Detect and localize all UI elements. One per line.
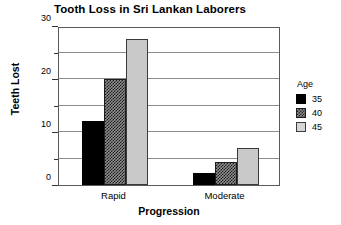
legend-entries: 354045 xyxy=(296,92,340,133)
x-axis-title: Progression xyxy=(58,205,280,217)
legend: Age 354045 xyxy=(296,79,340,134)
y-tick-label: 10 xyxy=(5,120,51,129)
bars-layer xyxy=(59,28,279,185)
y-axis-tick-labels: 0102030 xyxy=(0,27,51,186)
bar-rapid-age-35 xyxy=(82,121,104,185)
legend-label: 45 xyxy=(312,122,322,132)
legend-swatch-icon xyxy=(296,108,306,118)
legend-label: 35 xyxy=(312,94,322,104)
legend-item-age-35[interactable]: 35 xyxy=(296,92,340,105)
x-tick-label-rapid: Rapid xyxy=(101,190,126,201)
legend-label: 40 xyxy=(312,108,322,118)
bar-rapid-age-45 xyxy=(126,39,148,185)
plot-area xyxy=(58,27,280,186)
y-tick-label: 30 xyxy=(5,14,51,23)
y-tick-label: 20 xyxy=(5,67,51,76)
legend-swatch-icon xyxy=(296,94,306,104)
bar-moderate-age-35 xyxy=(193,173,215,185)
x-tick-label-moderate: Moderate xyxy=(204,190,244,201)
bar-rapid-age-40 xyxy=(104,79,126,185)
y-tick-label: 0 xyxy=(5,173,51,182)
x-axis-tick-labels: RapidModerate xyxy=(58,190,280,203)
bar-moderate-age-40 xyxy=(215,162,237,185)
legend-item-age-40[interactable]: 40 xyxy=(296,106,340,119)
bar-moderate-age-45 xyxy=(237,148,259,185)
chart-figure: Tooth Loss in Sri Lankan Laborers Teeth … xyxy=(0,0,341,225)
legend-swatch-icon xyxy=(296,122,306,132)
legend-title: Age xyxy=(297,79,340,89)
legend-item-age-45[interactable]: 45 xyxy=(296,120,340,133)
